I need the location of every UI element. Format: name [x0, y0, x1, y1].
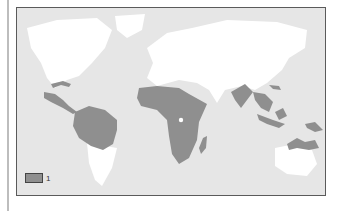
- legend-swatch: [25, 173, 43, 183]
- legend-label: 1: [46, 174, 50, 183]
- region-north-australia: [287, 138, 319, 150]
- map-canvas: [17, 8, 326, 196]
- map-legend: 1: [25, 173, 50, 183]
- greenland: [115, 14, 145, 38]
- lake-victoria: [179, 118, 183, 122]
- side-rule: [7, 0, 9, 211]
- region-africa: [137, 86, 207, 164]
- region-southeast-asia: [253, 92, 273, 112]
- region-borneo: [275, 108, 287, 120]
- region-new-guinea: [305, 122, 323, 132]
- region-madagascar: [199, 136, 207, 154]
- region-amazon: [73, 106, 117, 150]
- region-taiwan-coast: [269, 85, 281, 90]
- region-central-america: [44, 92, 77, 114]
- north-america: [27, 18, 112, 88]
- world-map: [16, 7, 326, 196]
